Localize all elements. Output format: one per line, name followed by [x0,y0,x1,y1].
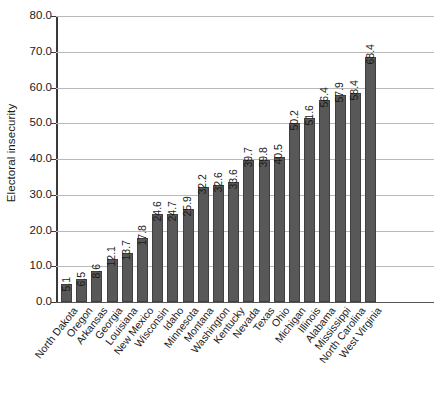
bar-value-label: 32.2 [197,174,208,194]
bar-value-label: 17.8 [136,225,147,245]
y-tick-label: 80.0 [30,10,52,22]
bar-value-label: 24.7 [166,201,177,221]
y-tick-label: 70.0 [30,46,52,58]
bar-value-label: 51.6 [303,105,314,125]
bar-value-label: 32.6 [212,173,223,193]
bar-value-label: 39.8 [258,147,269,167]
y-tick-label: 10.0 [30,261,52,273]
bar [350,93,361,302]
bar [304,118,315,302]
bar [289,123,300,302]
bar [335,95,346,302]
bar-value-label: 57.9 [334,82,345,102]
y-axis-tick-labels: 0.010.020.030.040.050.060.070.080.0 [16,16,52,302]
bar-value-label: 6.5 [75,272,86,287]
bar-chart: Electoral insecurity 0.010.020.030.040.0… [0,0,439,393]
bar-value-label: 5.1 [60,277,71,292]
bar-value-label: 13.7 [121,240,132,260]
bar-value-label: 25.9 [182,196,193,216]
y-tick-label: 30.0 [30,189,52,201]
bar-value-label: 39.7 [242,147,253,167]
bar-value-label: 40.5 [273,144,284,164]
y-tick-label: 40.0 [30,153,52,165]
bar-value-label: 24.6 [151,201,162,221]
y-tick-label: 50.0 [30,118,52,130]
bar-value-label: 68.4 [364,45,375,65]
y-tick-label: 60.0 [30,82,52,94]
x-axis-tick-labels: North DakotaOregonArkansasGeorgiaLouisia… [56,305,434,393]
y-tick-label: 20.0 [30,225,52,237]
bar-value-label: 56.4 [318,87,329,107]
bar-value-label: 58.4 [349,80,360,100]
bar-value-label: 33.6 [227,169,238,189]
bar-value-label: 50.2 [288,110,299,130]
